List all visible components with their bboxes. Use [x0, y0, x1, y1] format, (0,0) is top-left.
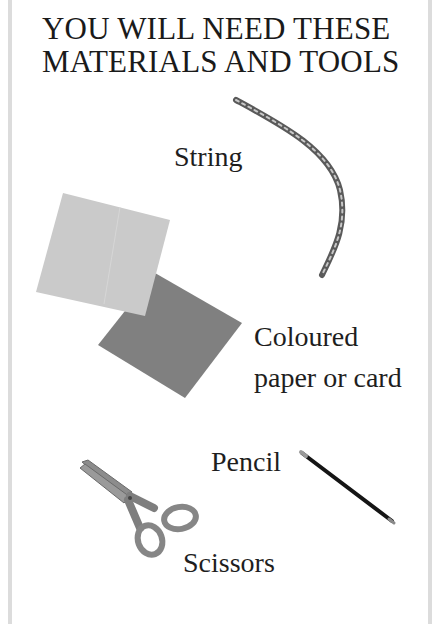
label-pencil: Pencil — [211, 445, 281, 478]
label-coloured-paper-line-1: Coloured — [254, 320, 358, 353]
pencil-icon — [301, 452, 394, 523]
string-icon — [236, 100, 342, 275]
page-frame-right — [428, 0, 432, 624]
scissors-icon — [80, 460, 198, 558]
coloured-paper-icon — [36, 193, 242, 398]
illustrations — [12, 0, 428, 624]
label-scissors: Scissors — [183, 546, 275, 579]
materials-page: YOU WILL NEED THESE MATERIALS AND TOOLS — [12, 0, 428, 624]
label-string: String — [174, 140, 242, 173]
label-coloured-paper-line-2: paper or card — [254, 361, 402, 394]
